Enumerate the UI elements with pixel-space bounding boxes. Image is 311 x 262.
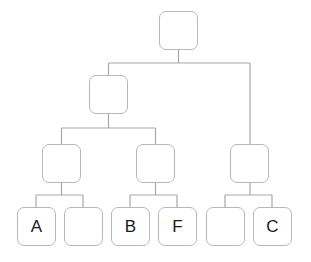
level2-middle-node (136, 144, 175, 183)
level2-left-node (42, 144, 81, 183)
leaf-node-blank-1 (64, 207, 103, 246)
leaf-node-f: F (158, 207, 197, 246)
root-node (159, 11, 198, 50)
level2-right-node (230, 144, 269, 183)
leaf-node-c: C (253, 207, 292, 246)
leaf-node-blank-2 (206, 207, 245, 246)
leaf-node-b: B (111, 207, 150, 246)
level1-left-node (89, 75, 128, 114)
leaf-node-a: A (17, 207, 56, 246)
